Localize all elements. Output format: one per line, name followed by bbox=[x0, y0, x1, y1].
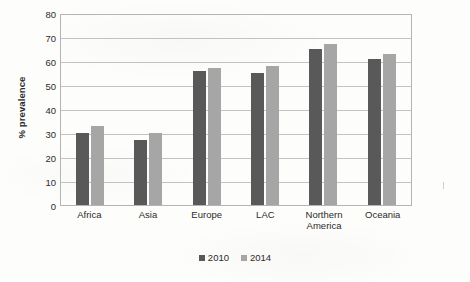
bar bbox=[208, 68, 221, 205]
bar-group bbox=[61, 15, 119, 205]
chart-page: % prevalence 80706050403020100 AfricaAsi… bbox=[0, 0, 470, 282]
bar bbox=[134, 140, 147, 205]
y-axis-tick-label: 40 bbox=[45, 105, 56, 116]
x-axis-tick-label: Africa bbox=[60, 209, 119, 231]
plot-area bbox=[60, 14, 412, 206]
bar-group bbox=[294, 15, 352, 205]
bar-group bbox=[119, 15, 177, 205]
y-axis-tick-label: 70 bbox=[45, 33, 56, 44]
bar bbox=[149, 133, 162, 205]
y-axis-tick-label: 80 bbox=[45, 9, 56, 20]
chart-legend: 20102014 bbox=[0, 252, 470, 263]
legend-item[interactable]: 2010 bbox=[199, 252, 229, 263]
x-axis-tick-label: Europe bbox=[177, 209, 236, 231]
bar-group bbox=[236, 15, 294, 205]
bar bbox=[324, 44, 337, 205]
legend-swatch-icon bbox=[199, 255, 205, 261]
bar bbox=[251, 73, 264, 205]
bar bbox=[309, 49, 322, 205]
legend-label: 2014 bbox=[250, 252, 271, 263]
y-axis-title: % prevalence bbox=[14, 62, 30, 152]
bar-group bbox=[353, 15, 411, 205]
bar bbox=[193, 71, 206, 205]
bar-group bbox=[178, 15, 236, 205]
bar-groups bbox=[61, 15, 411, 205]
y-axis-title-text: % prevalence bbox=[17, 76, 28, 138]
x-axis-tick-label: Northern America bbox=[295, 209, 354, 231]
x-axis-tick-labels: AfricaAsiaEuropeLACNorthern AmericaOcean… bbox=[60, 209, 412, 231]
y-axis-tick-label: 50 bbox=[45, 81, 56, 92]
x-axis-tick-label: Oceania bbox=[353, 209, 412, 231]
legend-label: 2010 bbox=[208, 252, 229, 263]
x-axis-tick-label: Asia bbox=[119, 209, 178, 231]
bar bbox=[76, 133, 89, 205]
bar bbox=[266, 66, 279, 205]
y-axis-tick-label: 30 bbox=[45, 129, 56, 140]
y-axis-tick-labels: 80706050403020100 bbox=[30, 14, 56, 206]
legend-swatch-icon bbox=[241, 255, 247, 261]
y-axis-tick-label: 10 bbox=[45, 177, 56, 188]
y-axis-tick-label: 60 bbox=[45, 57, 56, 68]
scan-artifact bbox=[443, 182, 444, 189]
bar bbox=[91, 126, 104, 205]
bar bbox=[368, 59, 381, 205]
legend-item[interactable]: 2014 bbox=[241, 252, 271, 263]
y-axis-tick-label: 0 bbox=[51, 201, 56, 212]
x-axis-tick-label: LAC bbox=[236, 209, 295, 231]
bar bbox=[383, 54, 396, 205]
y-axis-tick-label: 20 bbox=[45, 153, 56, 164]
